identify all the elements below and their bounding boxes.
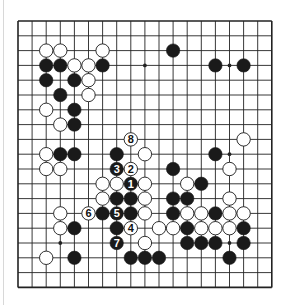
move-number-label: 6 (85, 207, 91, 219)
black-stone[interactable] (181, 192, 194, 205)
star-point (58, 241, 62, 245)
black-stone[interactable] (54, 88, 67, 101)
white-stone[interactable]: 8 (124, 133, 137, 146)
white-stone[interactable] (40, 103, 53, 116)
stone-disc (209, 148, 222, 161)
white-stone[interactable] (138, 236, 151, 249)
black-stone[interactable] (195, 177, 208, 190)
go-board-canvas[interactable]: 83216547 (0, 0, 289, 305)
white-stone[interactable] (96, 177, 109, 190)
black-stone[interactable] (209, 148, 222, 161)
white-stone[interactable] (54, 222, 67, 235)
stone-disc (209, 236, 222, 249)
black-stone[interactable] (209, 207, 222, 220)
black-stone[interactable] (68, 222, 81, 235)
black-stone[interactable] (124, 192, 137, 205)
white-stone[interactable] (152, 222, 165, 235)
black-stone[interactable] (195, 236, 208, 249)
white-stone[interactable] (40, 44, 53, 57)
white-stone[interactable] (237, 207, 250, 220)
black-stone[interactable] (110, 192, 123, 205)
black-stone[interactable] (138, 251, 151, 264)
white-stone[interactable] (181, 177, 194, 190)
white-stone[interactable] (138, 192, 151, 205)
white-stone[interactable] (110, 177, 123, 190)
white-stone[interactable] (54, 207, 67, 220)
white-stone[interactable]: 6 (82, 207, 95, 220)
white-stone[interactable] (223, 192, 236, 205)
stone-disc (181, 177, 194, 190)
stone-disc (138, 207, 151, 220)
stone-disc (54, 88, 67, 101)
black-stone[interactable] (54, 148, 67, 161)
white-stone[interactable] (54, 118, 67, 131)
black-stone[interactable] (68, 251, 81, 264)
white-stone[interactable]: 4 (124, 222, 137, 235)
black-stone[interactable] (110, 222, 123, 235)
black-stone[interactable] (68, 118, 81, 131)
white-stone[interactable] (166, 222, 179, 235)
stone-disc (110, 192, 123, 205)
star-point (228, 241, 232, 245)
black-stone[interactable] (237, 236, 250, 249)
white-stone[interactable] (138, 177, 151, 190)
black-stone[interactable] (166, 207, 179, 220)
black-stone[interactable] (237, 222, 250, 235)
white-stone[interactable] (68, 59, 81, 72)
black-stone[interactable]: 3 (110, 162, 123, 175)
white-stone[interactable] (82, 59, 95, 72)
black-stone[interactable] (110, 148, 123, 161)
black-stone[interactable] (40, 74, 53, 87)
stone-disc (237, 236, 250, 249)
white-stone[interactable] (40, 162, 53, 175)
white-stone[interactable] (54, 162, 67, 175)
black-stone[interactable] (181, 222, 194, 235)
white-stone[interactable] (195, 207, 208, 220)
white-stone[interactable] (40, 251, 53, 264)
go-board[interactable]: 83216547 (0, 0, 289, 305)
black-stone[interactable] (209, 59, 222, 72)
white-stone[interactable] (195, 222, 208, 235)
black-stone[interactable] (124, 251, 137, 264)
black-stone[interactable] (96, 207, 109, 220)
stone-disc (68, 222, 81, 235)
black-stone[interactable]: 7 (110, 236, 123, 249)
black-stone[interactable] (237, 59, 250, 72)
black-stone[interactable] (166, 44, 179, 57)
white-stone[interactable] (96, 44, 109, 57)
black-stone[interactable] (96, 59, 109, 72)
white-stone[interactable] (54, 44, 67, 57)
black-stone[interactable] (209, 236, 222, 249)
stone-disc (54, 44, 67, 57)
black-stone[interactable] (124, 207, 137, 220)
white-stone[interactable] (223, 207, 236, 220)
black-stone[interactable]: 1 (124, 177, 137, 190)
white-stone[interactable] (209, 222, 222, 235)
white-stone[interactable]: 2 (124, 162, 137, 175)
white-stone[interactable] (40, 148, 53, 161)
white-stone[interactable] (82, 88, 95, 101)
stone-disc (96, 44, 109, 57)
stone-disc (237, 59, 250, 72)
white-stone[interactable] (237, 133, 250, 146)
stone-disc (54, 222, 67, 235)
black-stone[interactable] (54, 59, 67, 72)
white-stone[interactable] (138, 148, 151, 161)
black-stone[interactable] (166, 192, 179, 205)
black-stone[interactable] (68, 74, 81, 87)
white-stone[interactable] (138, 207, 151, 220)
black-stone[interactable] (166, 162, 179, 175)
stone-disc (181, 236, 194, 249)
white-stone[interactable] (181, 207, 194, 220)
black-stone[interactable] (152, 251, 165, 264)
white-stone[interactable] (223, 162, 236, 175)
black-stone[interactable] (223, 251, 236, 264)
black-stone[interactable] (181, 236, 194, 249)
white-stone[interactable] (96, 192, 109, 205)
black-stone[interactable] (68, 148, 81, 161)
white-stone[interactable] (82, 74, 95, 87)
white-stone[interactable] (223, 222, 236, 235)
black-stone[interactable] (40, 59, 53, 72)
black-stone[interactable]: 5 (110, 207, 123, 220)
black-stone[interactable] (68, 103, 81, 116)
